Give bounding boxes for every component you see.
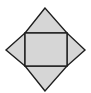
- triangle-face-bottom: [25, 66, 67, 91]
- pyramid-net-diagram: [0, 0, 91, 93]
- triangle-face-right: [67, 33, 85, 66]
- triangle-face-left: [6, 33, 25, 66]
- base-rectangle-face: [25, 33, 67, 66]
- triangle-face-top: [25, 8, 67, 33]
